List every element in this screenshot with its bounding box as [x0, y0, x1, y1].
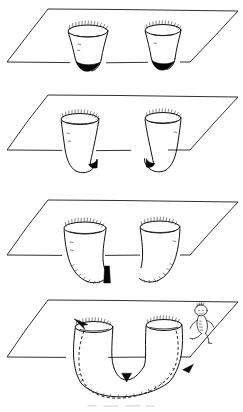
plane-bottom-edge-a [7, 62, 70, 63]
figure-canvas [0, 0, 243, 412]
throat-gap-bar [104, 266, 111, 283]
wormhole-figure: Wormhole formation sequence Four stacked… [0, 0, 243, 412]
figure-background [0, 0, 243, 412]
plane-bottom-edge-b [106, 62, 148, 63]
